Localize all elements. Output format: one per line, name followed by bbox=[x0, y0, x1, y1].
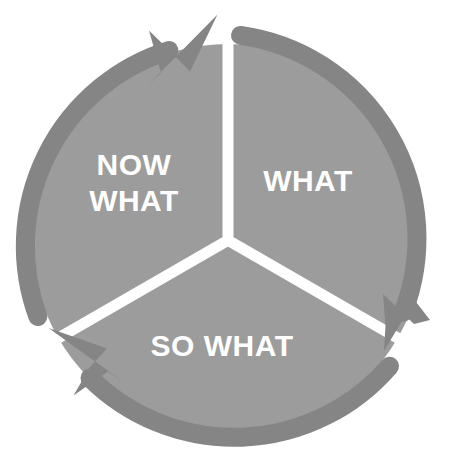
cycle-diagram-canvas: WHAT SO WHAT NOW WHAT bbox=[0, 0, 461, 465]
segment-label-now-what-line1: NOW bbox=[97, 148, 172, 181]
segment-label-so-what: SO WHAT bbox=[151, 329, 294, 362]
segment-label-now-what-line2: WHAT bbox=[89, 184, 179, 217]
cycle-diagram: WHAT SO WHAT NOW WHAT bbox=[0, 0, 461, 465]
segment-label-what: WHAT bbox=[263, 164, 353, 197]
